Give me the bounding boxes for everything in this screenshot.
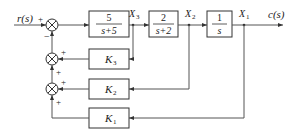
svg-text:1: 1 <box>246 13 250 21</box>
svg-text:2: 2 <box>192 13 196 21</box>
x3-label: X 3 <box>128 8 140 21</box>
input-signal: r(s) + <box>14 12 46 27</box>
block-diagram: r(s) + − 5 s+5 X 3 2 s+2 X 2 <box>0 0 297 139</box>
sum2-plus-bottom: + <box>56 67 61 77</box>
svg-text:3: 3 <box>136 13 140 21</box>
svg-text:K: K <box>104 83 113 95</box>
block-g3: 1 s <box>207 11 232 37</box>
sum1-minus-sign: − <box>44 31 50 42</box>
output-label: c(s) <box>268 8 285 21</box>
svg-text:X: X <box>128 8 136 19</box>
block-k3: K 3 <box>89 49 129 69</box>
g1-numerator: 5 <box>107 12 112 23</box>
input-label: r(s) <box>17 12 33 25</box>
svg-text:K: K <box>104 112 113 124</box>
sum3-plus-bottom: + <box>56 97 61 107</box>
summing-junction-1: − <box>44 19 58 42</box>
g1-denominator: s+5 <box>101 25 117 36</box>
block-g2: 2 s+2 <box>149 11 178 37</box>
block-g1: 5 s+5 <box>89 11 129 37</box>
g2-denominator: s+2 <box>156 25 172 36</box>
g3-numerator: 1 <box>217 12 222 23</box>
summing-junction-2: + + <box>46 47 66 77</box>
x2-label: X 2 <box>184 8 196 21</box>
block-k2: K 2 <box>89 79 129 99</box>
svg-text:K: K <box>104 53 113 65</box>
x1-label: X 1 <box>238 8 250 21</box>
sum1-plus-sign: + <box>38 14 43 24</box>
block-k1: K 1 <box>89 108 129 128</box>
svg-text:X: X <box>184 8 192 19</box>
svg-text:3: 3 <box>113 59 117 67</box>
g2-numerator: 2 <box>161 12 166 23</box>
svg-text:2: 2 <box>113 89 117 97</box>
g3-denominator: s <box>218 25 222 36</box>
svg-text:1: 1 <box>113 118 117 126</box>
summing-junction-3: + + <box>46 77 66 107</box>
sum3-plus-right: + <box>61 77 66 87</box>
sum2-plus-right: + <box>61 47 66 57</box>
svg-text:X: X <box>238 8 246 19</box>
